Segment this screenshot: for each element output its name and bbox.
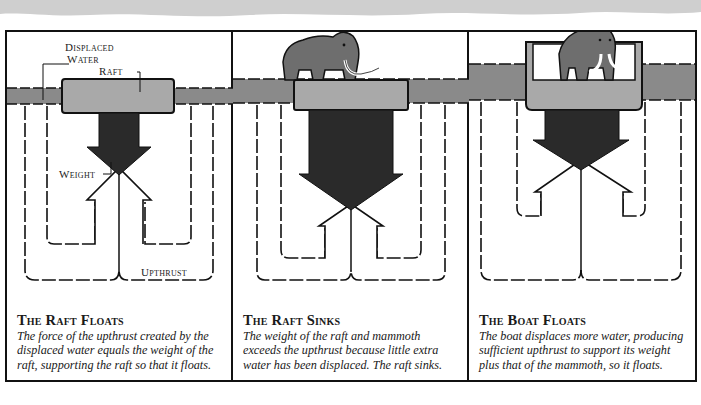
caption-title: The Boat Floats bbox=[479, 312, 689, 328]
label-weight: Weight bbox=[59, 168, 95, 180]
boat-floats-diagram bbox=[469, 32, 695, 302]
panel-raft-floats: Displaced Water Raft Weight Upthrust The… bbox=[7, 32, 233, 380]
mammoth-icon bbox=[283, 32, 379, 80]
torn-paper-edge bbox=[0, 0, 701, 22]
weight-arrow bbox=[87, 113, 151, 175]
caption-title: The Raft Sinks bbox=[243, 312, 461, 328]
weight-arrow bbox=[299, 110, 403, 210]
caption-text: The weight of the raft and mammoth excee… bbox=[243, 329, 461, 373]
caption-title: The Raft Floats bbox=[17, 312, 225, 328]
caption: The Raft Floats The force of the upthrus… bbox=[17, 312, 225, 373]
raft bbox=[62, 79, 174, 113]
caption-text: The force of the upthrust created by the… bbox=[17, 329, 225, 373]
label-water: Water bbox=[67, 53, 99, 65]
weight-arrow bbox=[533, 110, 629, 170]
caption-text: The boat displaces more water, producing… bbox=[479, 329, 689, 373]
diagram-frame: Displaced Water Raft Weight Upthrust The… bbox=[5, 30, 697, 382]
panel-boat-floats: The Boat Floats The boat displaces more … bbox=[469, 32, 695, 380]
raft-sinks-diagram bbox=[233, 32, 469, 302]
label-upthrust: Upthrust bbox=[141, 266, 187, 278]
caption: The Raft Sinks The weight of the raft an… bbox=[243, 312, 461, 373]
mammoth-icon bbox=[559, 32, 623, 80]
label-raft: Raft bbox=[99, 65, 123, 77]
caption: The Boat Floats The boat displaces more … bbox=[479, 312, 689, 373]
raft bbox=[294, 80, 408, 110]
panel-raft-sinks: The Raft Sinks The weight of the raft an… bbox=[233, 32, 469, 380]
label-displaced: Displaced bbox=[65, 41, 114, 53]
